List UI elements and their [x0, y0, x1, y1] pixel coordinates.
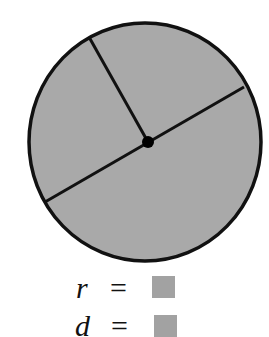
- equals-sign: =: [110, 275, 127, 301]
- radius-answer-box[interactable]: [152, 276, 175, 298]
- radius-equation: r =: [0, 275, 269, 301]
- equals-sign: =: [111, 313, 128, 337]
- diameter-equation: d =: [0, 313, 269, 337]
- radius-variable-label: r: [76, 275, 88, 301]
- center-point: [142, 136, 154, 148]
- diameter-variable-label: d: [75, 313, 90, 337]
- diameter-answer-box[interactable]: [154, 315, 177, 337]
